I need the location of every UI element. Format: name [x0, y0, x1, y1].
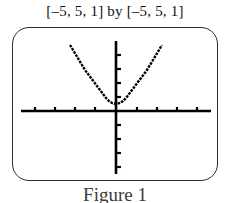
window-setting-label: [–5, 5, 1] by [–5, 5, 1]	[0, 2, 230, 20]
calculator-figure: [–5, 5, 1] by [–5, 5, 1]	[0, 0, 230, 203]
figure-caption: Figure 1	[0, 184, 230, 203]
calculator-screen	[12, 27, 218, 181]
graph-plot	[13, 28, 219, 182]
